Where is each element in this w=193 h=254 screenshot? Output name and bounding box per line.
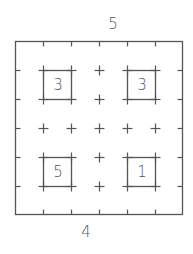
puzzle-grid[interactable] xyxy=(0,0,193,254)
cell-label: 5 xyxy=(48,164,68,180)
grid-ticks xyxy=(16,42,183,215)
cell-label: 3 xyxy=(48,77,68,93)
cell-label: 1 xyxy=(132,164,152,180)
cell-label: 3 xyxy=(132,77,152,93)
